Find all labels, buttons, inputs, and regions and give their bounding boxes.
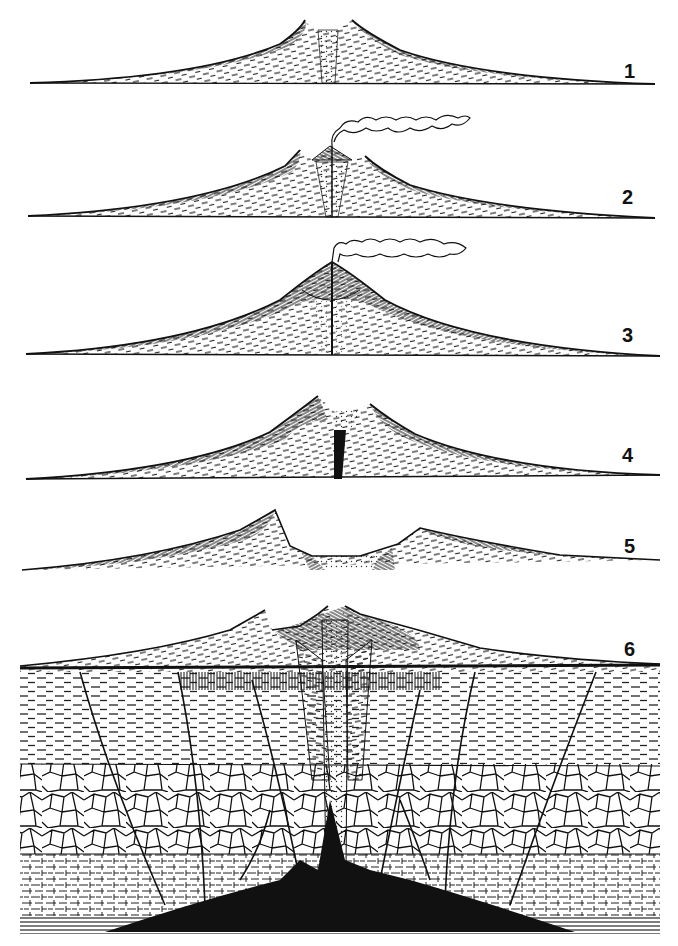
stage-label-1: 1 xyxy=(624,60,635,83)
stage-label-2: 2 xyxy=(622,186,633,209)
stage-5-cross-section xyxy=(22,510,660,570)
stage-6-cross-section xyxy=(20,606,660,934)
stage-label-6: 6 xyxy=(624,638,635,661)
smoke-plume xyxy=(332,239,466,262)
volcano-diagram xyxy=(0,0,678,946)
stage-1-cross-section xyxy=(30,20,655,84)
stage-label-4: 4 xyxy=(622,444,633,467)
stage-label-3: 3 xyxy=(622,324,633,347)
stage-4-cross-section xyxy=(26,396,660,479)
stage-label-5: 5 xyxy=(624,535,635,558)
stage-3-cross-section xyxy=(26,239,660,356)
smoke-plume xyxy=(332,115,470,146)
stage-2-cross-section xyxy=(28,115,655,218)
